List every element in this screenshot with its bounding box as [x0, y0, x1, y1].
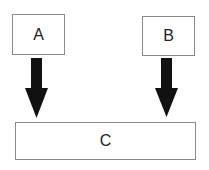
node-c-label: C — [100, 132, 112, 150]
arrow-a-to-c-icon — [25, 58, 48, 118]
node-c: C — [15, 122, 196, 160]
arrow-b-to-c-icon — [155, 58, 178, 117]
